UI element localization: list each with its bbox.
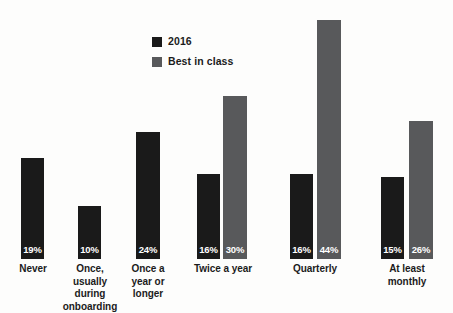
bar-value-best-in-class-twice-a-year: 30% bbox=[223, 244, 247, 255]
category-label-twice-a-year: Twice a year bbox=[188, 263, 258, 276]
bar-best-in-class-at-least-monthly[interactable]: 26% bbox=[409, 121, 433, 259]
category-label-never-line-1: Never bbox=[6, 263, 60, 276]
category-label-once-a-year-or-longer: Once a year or longer bbox=[124, 263, 172, 301]
bar-value-2016-once-onboarding: 10% bbox=[78, 244, 101, 255]
bar-value-2016-twice-a-year: 16% bbox=[197, 244, 220, 255]
category-label-twice-a-year-line-1: Twice a year bbox=[188, 263, 258, 276]
category-label-once-onboarding-line-3: onboarding bbox=[60, 301, 120, 313]
bar-value-best-in-class-at-least-monthly: 26% bbox=[409, 244, 433, 255]
bar-value-2016-never: 19% bbox=[21, 244, 44, 255]
bar-chart: 2016 Best in class 19% 10% 24% 16% 30% 1… bbox=[0, 0, 453, 313]
category-label-once-a-year-or-longer-line-3: longer bbox=[124, 288, 172, 301]
bar-best-in-class-quarterly[interactable]: 44% bbox=[317, 20, 341, 259]
category-label-at-least-monthly-line-1: At least bbox=[375, 263, 439, 276]
bar-2016-at-least-monthly[interactable]: 15% bbox=[381, 177, 404, 259]
bar-2016-once-onboarding[interactable]: 10% bbox=[78, 206, 101, 259]
category-label-quarterly: Quarterly bbox=[280, 263, 350, 276]
category-label-at-least-monthly-line-2: monthly bbox=[375, 276, 439, 289]
bar-best-in-class-twice-a-year[interactable]: 30% bbox=[223, 96, 247, 259]
bar-value-2016-quarterly: 16% bbox=[290, 244, 313, 255]
category-label-once-onboarding: Once, usually during onboarding bbox=[60, 263, 120, 313]
plot-area: 19% 10% 24% 16% 30% 16% 44% 15% 26% bbox=[0, 0, 453, 259]
category-label-at-least-monthly: At least monthly bbox=[375, 263, 439, 288]
bar-2016-twice-a-year[interactable]: 16% bbox=[197, 174, 220, 259]
category-label-once-a-year-or-longer-line-1: Once a bbox=[124, 263, 172, 276]
bar-2016-never[interactable]: 19% bbox=[21, 158, 44, 259]
category-label-once-onboarding-line-1: Once, usually bbox=[60, 263, 120, 288]
bar-2016-quarterly[interactable]: 16% bbox=[290, 174, 313, 259]
bar-value-2016-at-least-monthly: 15% bbox=[381, 244, 404, 255]
bar-2016-once-a-year-or-longer[interactable]: 24% bbox=[136, 132, 160, 259]
category-label-once-onboarding-line-2: during bbox=[60, 288, 120, 301]
bar-value-2016-once-a-year-or-longer: 24% bbox=[136, 244, 160, 255]
category-label-once-a-year-or-longer-line-2: year or bbox=[124, 276, 172, 289]
bar-value-best-in-class-quarterly: 44% bbox=[317, 244, 341, 255]
category-label-quarterly-line-1: Quarterly bbox=[280, 263, 350, 276]
category-label-never: Never bbox=[6, 263, 60, 276]
